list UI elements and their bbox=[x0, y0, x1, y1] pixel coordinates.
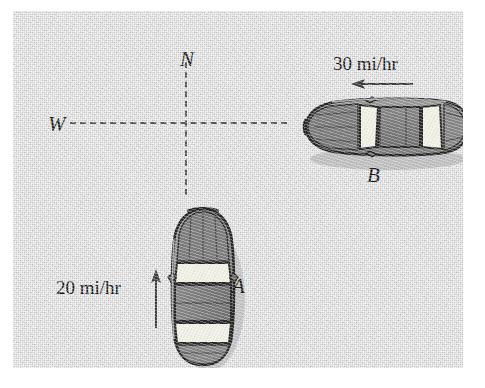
car-b-label: B bbox=[367, 165, 380, 186]
car-b-speed-label: 30 mi/hr bbox=[333, 54, 398, 73]
west-axis-dashed-line bbox=[70, 122, 287, 124]
car-a-speed-label: 20 mi/hr bbox=[56, 278, 121, 297]
car-a-velocity-arrow bbox=[149, 264, 163, 334]
car-a-windshield bbox=[175, 263, 231, 283]
car-b-roof bbox=[378, 107, 420, 147]
car-a-label: A bbox=[232, 276, 245, 297]
diagram-background-panel: N W bbox=[13, 11, 463, 368]
physics-figure: N W bbox=[0, 0, 485, 388]
car-b-velocity-arrow bbox=[345, 77, 415, 95]
north-axis-dashed-line bbox=[185, 62, 187, 195]
car-b-windshield bbox=[360, 105, 378, 149]
car-b-rear-window bbox=[422, 105, 442, 149]
car-b-topview-svg bbox=[296, 93, 463, 171]
compass-label-north: N bbox=[180, 49, 194, 70]
compass-label-west: W bbox=[48, 114, 66, 135]
car-a-rear-window bbox=[175, 323, 231, 343]
